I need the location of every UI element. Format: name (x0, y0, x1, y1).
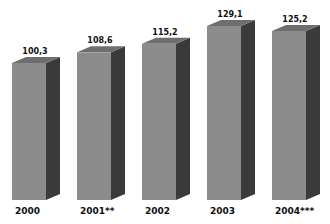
bar-front (142, 44, 176, 200)
value-label: 125,2 (282, 15, 307, 24)
bar-2003: 129,12003 (207, 10, 255, 216)
value-label: 100,3 (22, 47, 47, 56)
value-label: 129,1 (217, 10, 243, 19)
category-label: 2003 (210, 206, 235, 216)
bar-2002: 115,22002 (142, 28, 190, 216)
bar-2000: 100,32000 (12, 47, 60, 216)
bar-front (207, 26, 241, 200)
bar-front (12, 63, 46, 200)
bar-side (306, 25, 320, 200)
bar-front (272, 31, 306, 200)
bar-chart: 100,32000108,62001**115,22002129,1200312… (0, 0, 330, 224)
bar-side (111, 46, 125, 200)
category-label: 2000 (15, 206, 40, 216)
category-label: 2001** (80, 206, 115, 216)
bar-2004***: 125,22004*** (272, 15, 320, 216)
category-label: 2004*** (275, 206, 314, 216)
value-label: 108,6 (87, 36, 113, 45)
bar-side (176, 38, 190, 200)
bar-2001**: 108,62001** (77, 36, 125, 216)
bar-side (46, 57, 60, 200)
bar-side (241, 20, 255, 200)
value-label: 115,2 (152, 28, 177, 37)
bar-front (77, 52, 111, 200)
category-label: 2002 (145, 206, 170, 216)
